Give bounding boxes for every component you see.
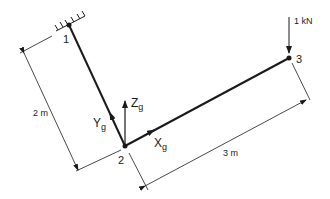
z-axis-label: Zg	[131, 96, 143, 112]
frame-diagram: 1 2 3 1 kN Zg Yg Xg 2 m 3 m	[0, 0, 330, 199]
dimension-3m-label: 3 m	[223, 148, 238, 158]
node-1	[67, 23, 72, 28]
node-3	[287, 56, 292, 61]
dimension-2m-label: 2 m	[33, 108, 48, 118]
node-3-label: 3	[296, 53, 302, 65]
load-label: 1 kN	[294, 16, 313, 26]
y-axis-arrow-icon	[110, 113, 119, 133]
node-1-label: 1	[63, 33, 69, 45]
y-axis-label: Yg	[93, 116, 106, 132]
x-axis-label: Xg	[154, 136, 167, 152]
node-2-label: 2	[118, 154, 124, 166]
x-axis-arrow-icon	[138, 130, 154, 139]
dimension-3m	[129, 63, 310, 190]
